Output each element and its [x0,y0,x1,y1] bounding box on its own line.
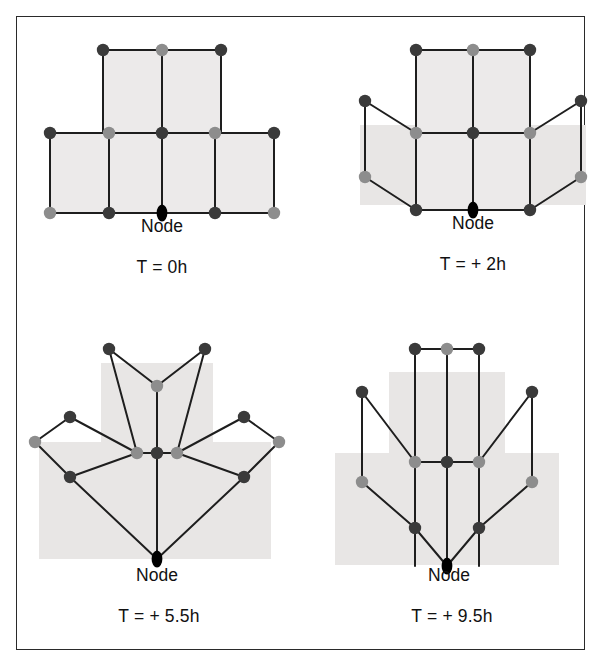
panel-t95-node-7 [473,456,485,468]
caption-t95: T = + 9.5h [367,606,537,627]
panel-t0-face-mid-left [50,133,109,213]
panel-t55-node-0 [103,343,115,355]
panel-t0-node-12 [268,207,280,219]
panel-t55-node-10 [64,471,76,483]
node-label-t95: Node [389,565,509,586]
panel-t95-node-10 [409,522,421,534]
panel-t55-node-2 [151,380,163,392]
panel-t2-face-top-right [473,50,530,133]
panel-t0-node-0 [97,44,109,56]
panel-t55-edge-10 [244,417,279,442]
panel-t0-face-top-right [162,50,221,133]
panel-t2-node-2 [524,44,536,56]
panel-t55-node-1 [199,343,211,355]
panel-t55-graph [17,327,302,579]
caption-t0: T = 0h [82,257,242,278]
panel-t55-node-5 [131,447,143,459]
panel-t0-face-mid-centerleft [109,133,162,213]
panel-t95-node-5 [409,456,421,468]
panel-t2-node-1 [467,44,479,56]
panel-t55-node-4 [238,411,250,423]
panel-t95-node-6 [441,456,453,468]
panel-t2-node-7 [575,95,587,107]
panel-t2-face-mid-left [416,133,473,210]
panel-t55 [17,327,302,579]
panel-t2-node-12 [575,171,587,183]
caption-t55: T = + 5.5h [74,606,244,627]
panel-t55-node-11 [238,471,250,483]
panel-t0-graph [17,17,302,232]
panel-t2-node-4 [410,127,422,139]
panel-t55-node-3 [64,411,76,423]
panel-t95-node-2 [473,343,485,355]
panel-t2-face-top-left [416,50,473,133]
panel-t0-node-6 [209,127,221,139]
panel-t0-node-4 [103,127,115,139]
panel-t0-node-5 [156,127,168,139]
panel-t95 [317,335,602,587]
panel-t2-node-3 [359,95,371,107]
panel-t0-node-8 [44,207,56,219]
panel-t2-face-mid-right [473,133,530,210]
caption-t2: T = + 2h [393,254,553,275]
panel-t2 [303,17,602,232]
panel-t0-face-mid-right [215,133,274,213]
panel-t0-node-7 [268,127,280,139]
panel-t55-node-8 [29,436,41,448]
panel-t95-node-0 [409,343,421,355]
panel-t95-node-11 [473,522,485,534]
panel-t55-node-9 [273,436,285,448]
panel-t0-face-top-left [103,50,162,133]
panel-t95-node-9 [526,476,538,488]
panel-t55-node-7 [171,447,183,459]
panel-t95-node-3 [356,386,368,398]
panel-t2-graph [303,17,602,232]
panel-t95-graph [317,335,602,587]
panel-t95-node-1 [441,343,453,355]
panel-t95-node-4 [526,386,538,398]
panel-t0 [17,17,302,232]
panel-t0-face-mid-centerright [162,133,215,213]
panel-t2-node-6 [524,127,536,139]
panel-t55-edge-9 [35,417,70,442]
panel-t0-node-1 [156,44,168,56]
figure-frame: Node T = 0h Node T = + 2h Node T = + 5.5… [16,16,585,650]
node-label-t55: Node [97,565,217,586]
panel-t95-node-8 [356,476,368,488]
panel-t2-node-5 [467,127,479,139]
node-label-t2: Node [413,213,533,234]
node-label-t0: Node [102,216,222,237]
panel-t2-node-8 [359,171,371,183]
panel-t55-band-lower [39,442,271,559]
panel-t0-node-2 [215,44,227,56]
panel-t55-node-6 [151,447,163,459]
panel-t2-node-0 [410,44,422,56]
panel-t0-node-3 [44,127,56,139]
